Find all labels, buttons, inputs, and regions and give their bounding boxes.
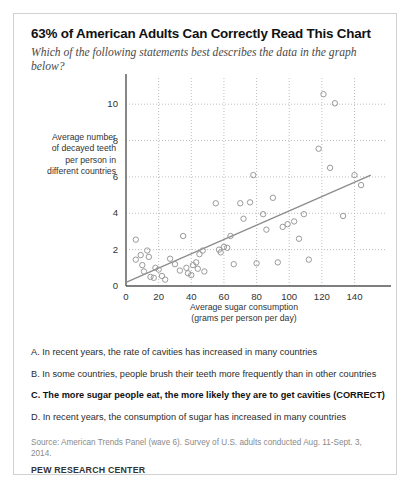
answer-option-b[interactable]: B. In some countries, people brush their… <box>31 368 383 380</box>
answer-option-a[interactable]: A. In recent years, the rate of cavities… <box>31 346 383 358</box>
x-axis-tick-100: 100 <box>277 291 301 302</box>
y-axis-tick-4: 4 <box>96 207 118 218</box>
x-axis-tick-140: 140 <box>343 291 367 302</box>
y-axis-tick-8: 8 <box>96 135 118 146</box>
x-axis-tick-20: 20 <box>147 291 171 302</box>
y-axis-tick-2: 2 <box>96 244 118 255</box>
x-axis-tick-120: 120 <box>310 291 334 302</box>
x-axis-tick-80: 80 <box>245 291 269 302</box>
x-axis-tick-0: 0 <box>114 291 138 302</box>
x-axis-tick-60: 60 <box>212 291 236 302</box>
y-axis-label-line-3: per person in <box>22 155 116 166</box>
answer-option-d[interactable]: D. In recent years, the consumption of s… <box>31 411 383 423</box>
y-axis-tick-6: 6 <box>96 171 118 182</box>
y-axis-tick-0: 0 <box>96 280 118 291</box>
scatter-chart: Average number of decayed teeth per pers… <box>14 14 397 314</box>
answer-option-c[interactable]: C. The more sugar people eat, the more l… <box>31 389 383 401</box>
infographic-card: 63% of American Adults Can Correctly Rea… <box>13 13 397 475</box>
x-axis-label-line-1: Average sugar consumption <box>154 302 334 313</box>
x-axis-label-line-2: (grams per person per day) <box>154 313 334 324</box>
x-axis-tick-40: 40 <box>179 291 203 302</box>
brand-attribution: PEW RESEARCH CENTER <box>31 465 145 475</box>
source-note: Source: American Trends Panel (wave 6). … <box>31 437 381 459</box>
answer-options: A. In recent years, the rate of cavities… <box>31 346 383 432</box>
x-axis-label: Average sugar consumption (grams per per… <box>154 302 334 324</box>
y-axis-tick-10: 10 <box>96 98 118 109</box>
